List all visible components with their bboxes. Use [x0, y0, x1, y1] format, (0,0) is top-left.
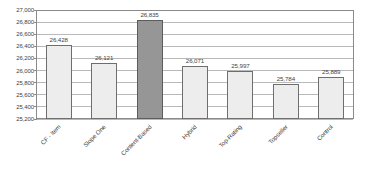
y-axis-tick-label: 26,000 — [1, 68, 34, 74]
bar-value-label: 26,835 — [140, 11, 158, 18]
bar[interactable] — [46, 45, 72, 119]
y-axis-tick-label: 25,800 — [1, 80, 34, 86]
bar-slot: 25,997 — [218, 10, 263, 119]
bar-slot: 25,889 — [309, 10, 354, 119]
y-axis-tick-label: 25,400 — [1, 104, 34, 110]
bar-value-label: 26,071 — [186, 57, 204, 64]
bar[interactable] — [273, 84, 299, 119]
bar[interactable] — [182, 66, 208, 119]
x-axis-tick-label-text: Topseller — [267, 123, 289, 145]
bar-value-label: 25,784 — [277, 75, 295, 82]
bar[interactable] — [318, 77, 344, 119]
y-axis-tick-label: 25,200 — [1, 116, 34, 122]
x-axis-label-slot: CF - Item — [36, 121, 81, 169]
bar-value-label: 26,428 — [50, 36, 68, 43]
x-axis-label-slot: Topseller — [263, 121, 308, 169]
y-axis-tick-label: 27,000 — [1, 7, 34, 13]
y-axis-tick-label: 25,600 — [1, 92, 34, 98]
bars-layer: 26,42826,12126,83526,07125,99725,78425,8… — [36, 10, 354, 119]
x-axis-label-slot: Top-Rating — [218, 121, 263, 169]
y-axis-tick-label: 26,200 — [1, 55, 34, 61]
bar[interactable] — [91, 63, 117, 119]
y-axis-tick-label: 26,600 — [1, 31, 34, 37]
bar[interactable] — [137, 20, 163, 119]
x-axis-tick-label-text: CF - Item — [39, 123, 62, 146]
y-axis-tick-label: 26,800 — [1, 19, 34, 25]
bar[interactable] — [227, 71, 253, 119]
x-axis-label-slot: Control — [309, 121, 354, 169]
bar-slot: 26,428 — [36, 10, 81, 119]
bar-value-label: 26,121 — [95, 54, 113, 61]
x-axis-label-slot: Hybrid — [172, 121, 217, 169]
bar-value-label: 25,997 — [231, 62, 249, 69]
x-axis-label-slot: Slope One — [81, 121, 126, 169]
bar-value-label: 25,889 — [322, 68, 340, 75]
bar-slot: 26,071 — [172, 10, 217, 119]
bar-slot: 26,835 — [127, 10, 172, 119]
x-axis: CF - ItemSlope OneContent-BasedHybridTop… — [36, 121, 354, 169]
x-axis-label-slot: Content-Based — [127, 121, 172, 169]
bar-slot: 26,121 — [81, 10, 126, 119]
bar-chart: 27,00026,80026,60026,40026,20026,00025,8… — [0, 0, 367, 170]
x-axis-tick-label-text: Slope One — [82, 123, 107, 148]
y-axis-tick-label: 26,400 — [1, 43, 34, 49]
y-axis: 27,00026,80026,60026,40026,20026,00025,8… — [0, 10, 34, 119]
x-axis-tick-label-text: Hybrid — [181, 123, 198, 140]
x-axis-tick-label-text: Control — [315, 123, 334, 142]
x-axis-tick-label-text: Top-Rating — [218, 123, 244, 149]
bar-slot: 25,784 — [263, 10, 308, 119]
